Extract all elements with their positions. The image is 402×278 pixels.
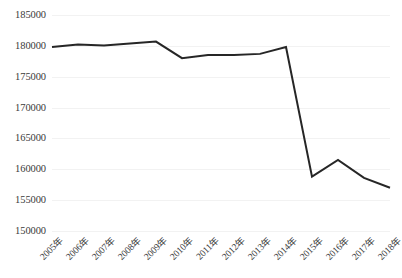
y-tick-label: 175000 xyxy=(0,71,46,82)
series-polyline xyxy=(52,42,390,188)
line-chart: 1850001800001750001700001650001600001550… xyxy=(0,0,402,278)
data-series-line xyxy=(52,15,390,231)
y-axis: 1850001800001750001700001650001600001550… xyxy=(0,0,50,278)
y-tick-label: 185000 xyxy=(0,9,46,20)
plot-area xyxy=(52,15,390,231)
y-tick-label: 180000 xyxy=(0,40,46,51)
y-tick-label: 155000 xyxy=(0,194,46,205)
y-tick-label: 160000 xyxy=(0,163,46,174)
y-tick-label: 150000 xyxy=(0,225,46,236)
x-axis: 2005年2006年2007年2008年2009年2010年2011年2012年… xyxy=(52,231,390,278)
y-tick-label: 170000 xyxy=(0,102,46,113)
y-tick-label: 165000 xyxy=(0,132,46,143)
